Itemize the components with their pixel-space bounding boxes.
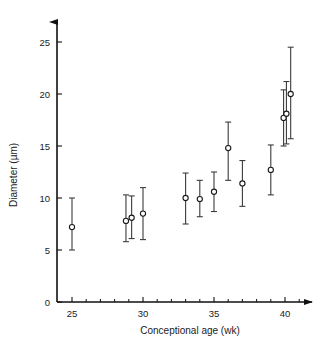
x-tick-label: 30: [138, 308, 149, 319]
y-tick-label: 10: [39, 193, 50, 204]
x-tick-label: 25: [67, 308, 78, 319]
data-point-marker: [197, 196, 202, 201]
data-point-marker: [211, 189, 216, 194]
data-point-marker: [129, 215, 134, 220]
x-tick-label: 35: [209, 308, 220, 319]
chart-figure: 0510152025 25303540 Diameter (µm) Concep…: [0, 0, 326, 342]
data-point-marker: [268, 167, 273, 172]
y-axis-title: Diameter (µm): [8, 143, 19, 207]
data-point-marker: [140, 211, 145, 216]
data-point-marker: [69, 225, 74, 230]
data-point-marker: [123, 218, 128, 223]
x-axis-title: Conceptional age (wk): [140, 325, 240, 336]
y-tick-label: 25: [39, 37, 50, 48]
data-series-group: [69, 47, 294, 250]
y-tick-label: 20: [39, 89, 50, 100]
data-point-marker: [284, 111, 289, 116]
data-point-marker: [226, 145, 231, 150]
x-tick-label: 40: [280, 308, 291, 319]
y-tick-label: 15: [39, 141, 50, 152]
scatter-plot: 0510152025 25303540 Diameter (µm) Concep…: [0, 0, 326, 342]
y-tick-group: 0510152025: [39, 37, 62, 308]
y-tick-label: 5: [45, 245, 50, 256]
data-point-marker: [183, 195, 188, 200]
data-point-marker: [288, 91, 293, 96]
y-tick-label: 0: [45, 297, 50, 308]
data-point-marker: [240, 181, 245, 186]
